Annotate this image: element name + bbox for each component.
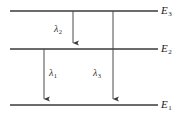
level-symbol-e2: E (161, 42, 168, 54)
transition-subscript-lambda3: 3 (97, 72, 101, 79)
level-symbol-e1: E (161, 98, 168, 110)
transition-label-lambda3: λ3 (93, 68, 101, 80)
level-label-e3: E3 (161, 5, 172, 18)
level-subscript-e2: 2 (168, 48, 172, 56)
level-subscript-e3: 3 (168, 10, 172, 18)
level-subscript-e1: 1 (168, 104, 172, 112)
diagram-canvas (0, 0, 178, 121)
level-label-e2: E2 (161, 43, 172, 56)
transition-subscript-lambda1: 1 (53, 72, 57, 79)
level-symbol-e3: E (161, 4, 168, 16)
energy-level-diagram: E3 E2 E1 λ2 λ1 λ3 (0, 0, 178, 121)
transition-label-lambda2: λ2 (54, 24, 62, 36)
transition-subscript-lambda2: 2 (58, 28, 62, 35)
transition-label-lambda1: λ1 (49, 68, 57, 80)
level-label-e1: E1 (161, 99, 172, 112)
